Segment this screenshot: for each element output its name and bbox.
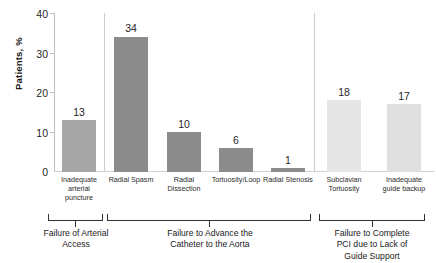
category-label-line: Dissection	[158, 184, 210, 193]
group-label-line: Catheter to the Aorta	[140, 239, 280, 250]
category-label-line: Subclavian	[314, 175, 374, 184]
group-label-line: Failure of Arterial	[28, 228, 124, 239]
category-label-line: Radial Stenosis	[262, 175, 314, 184]
group-bracket-stem-2	[372, 221, 373, 227]
category-label-line: puncture	[54, 193, 104, 202]
category-label-line: Tortuosity/Loop	[210, 175, 262, 184]
category-label-line: Tortuosity	[314, 184, 374, 193]
y-tick-label-30: 30	[22, 49, 48, 60]
category-label-line: Radial	[158, 175, 210, 184]
bar-slot-6: 17	[374, 13, 434, 172]
group-label-line: PCI due to Lack of	[312, 239, 432, 250]
y-tick-label-10: 10	[22, 128, 48, 139]
bar-value-6: 17	[398, 91, 410, 102]
category-label-line: Inadequate	[54, 175, 104, 184]
category-label-line: arterial	[54, 184, 104, 193]
category-label-4: Radial Stenosis	[262, 175, 314, 184]
bar-slot-3: 6	[210, 13, 262, 172]
group-bracket-2	[319, 214, 425, 221]
bar-value-5: 18	[338, 87, 350, 98]
bar-slot-5: 18	[314, 13, 374, 172]
category-label-5: SubclavianTortuosity	[314, 175, 374, 193]
plot-area: 13 34 10 6 1 18 17	[54, 13, 434, 172]
bar-4[interactable]	[271, 168, 305, 172]
category-label-6: Inadequateguide backup	[374, 175, 434, 193]
bar-2[interactable]	[167, 132, 201, 172]
group-bracket-0	[48, 214, 103, 221]
bar-5[interactable]	[327, 100, 361, 172]
group-bracket-stem-0	[75, 221, 76, 227]
group-label-line: Access	[28, 239, 124, 250]
bar-1[interactable]	[114, 37, 148, 172]
group-bracket-stem-1	[209, 221, 210, 227]
category-label-line: Radial Spasm	[104, 175, 158, 184]
category-label-line: guide backup	[374, 184, 434, 193]
category-label-line: Inadequate	[374, 175, 434, 184]
bar-chart: Patients, % 40 30 20 10 0 13 34 10 6 1	[0, 0, 436, 263]
bar-value-2: 10	[178, 119, 190, 130]
bar-value-1: 34	[125, 23, 137, 34]
category-label-1: Radial Spasm	[104, 175, 158, 184]
group-label-line: Failure to Advance the	[140, 228, 280, 239]
group-label-line: Failure to Complete	[312, 228, 432, 239]
bar-value-3: 6	[233, 135, 239, 146]
bar-0[interactable]	[62, 120, 96, 172]
bar-value-4: 1	[285, 155, 291, 166]
group-label-2: Failure to CompletePCI due to Lack ofGui…	[312, 228, 432, 262]
bar-slot-1: 34	[104, 13, 158, 172]
group-label-1: Failure to Advance theCatheter to the Ao…	[140, 228, 280, 251]
bar-6[interactable]	[387, 104, 421, 172]
y-tick-label-0: 0	[22, 167, 48, 178]
bar-slot-4: 1	[262, 13, 314, 172]
y-tick-label-40: 40	[22, 9, 48, 20]
bar-slot-2: 10	[158, 13, 210, 172]
group-label-line: Guide Support	[312, 251, 432, 262]
bar-value-0: 13	[73, 107, 85, 118]
category-label-3: Tortuosity/Loop	[210, 175, 262, 184]
group-bracket-1	[107, 214, 311, 221]
group-label-0: Failure of ArterialAccess	[28, 228, 124, 251]
y-tick-label-20: 20	[22, 88, 48, 99]
bar-3[interactable]	[219, 148, 253, 172]
category-label-2: RadialDissection	[158, 175, 210, 193]
category-label-0: Inadequatearterialpuncture	[54, 175, 104, 203]
bar-slot-0: 13	[54, 13, 104, 172]
